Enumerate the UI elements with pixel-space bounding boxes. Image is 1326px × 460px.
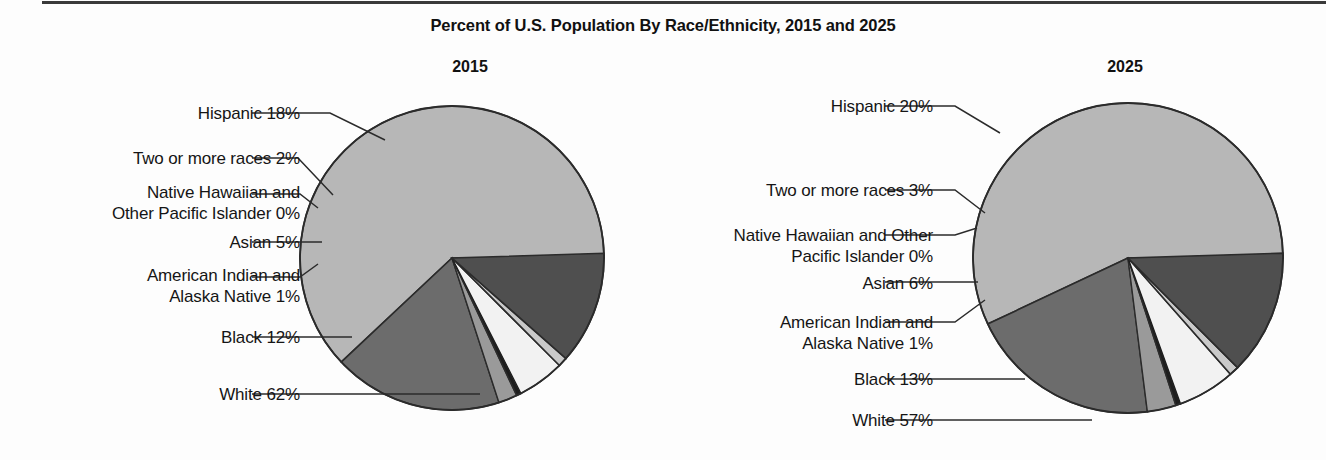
slice-nhopi-2025	[1128, 258, 1231, 404]
pie-2015	[300, 106, 604, 410]
slice-aian-2015	[452, 258, 517, 403]
slice-aian-2025	[1128, 258, 1176, 412]
slice-tworaces-2015	[452, 258, 566, 365]
pie-2025	[973, 103, 1283, 413]
pie-label-asian-2025: Asian 6%	[862, 273, 933, 294]
slice-hispanic-2025	[1128, 253, 1283, 367]
pie-label-nhopi-2015: Native Hawaiian and Other Pacific Island…	[112, 182, 300, 224]
pie-label-white-2025: White 57%	[852, 410, 933, 431]
pie-label-two-or-more-races-2015: Two or more races 2%	[133, 148, 300, 169]
slice-asian-2015	[452, 258, 521, 396]
top-divider	[42, 1, 1326, 4]
slice-black-2025	[988, 258, 1148, 413]
slice-hispanic-2015	[452, 253, 604, 358]
pie-label-hispanic-2025: Hispanic 20%	[831, 96, 933, 117]
pie-label-nhopi-2025: Native Hawaiian and Other Pacific Island…	[734, 225, 933, 267]
chart-page: Percent of U.S. Population By Race/Ethni…	[0, 0, 1326, 460]
pie-title-2015: 2015	[400, 58, 540, 76]
slice-white-2015	[300, 106, 604, 362]
pie-title-2025: 2025	[1055, 58, 1195, 76]
pie-label-two-or-more-races-2025: Two or more races 3%	[766, 180, 933, 201]
pie-label-asian-2015: Asian 5%	[229, 232, 300, 253]
slice-white-2025	[973, 103, 1283, 324]
pie-label-aian-2015: American Indian and Alaska Native 1%	[147, 265, 300, 307]
pie-label-black-2015: Black 12%	[221, 327, 300, 348]
pie-label-white-2015: White 62%	[219, 384, 300, 405]
pie-label-black-2025: Black 13%	[854, 369, 933, 390]
slice-tworaces-2025	[1128, 258, 1238, 374]
slice-black-2015	[341, 258, 499, 410]
slice-nhopi-2015	[452, 258, 559, 393]
slice-asian-2025	[1128, 258, 1181, 405]
pie-label-hispanic-2015: Hispanic 18%	[198, 103, 300, 124]
pie-label-aian-2025: American Indian and Alaska Native 1%	[780, 312, 933, 354]
page-title: Percent of U.S. Population By Race/Ethni…	[0, 16, 1326, 35]
